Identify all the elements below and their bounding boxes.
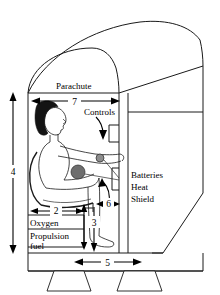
dimension-label-leg: 3 [92,218,97,228]
astronaut-hand [120,154,124,161]
seat-stitching [43,199,91,203]
lander-diagram: 4 7 2 3 [0,0,220,295]
controls-callout [96,117,107,140]
dimension-label-height: 4 [11,167,16,177]
controls-arrowhead [99,130,107,140]
label-propulsion: Propulsion [30,231,70,241]
label-controls: Controls [84,107,116,117]
label-oxygen: Oxygen [30,218,59,228]
astronaut-arm-upper [60,146,120,155]
label-fuel: fuel [30,241,44,251]
dimension-label-tank-width: 2 [54,206,59,216]
dimension-height-left: 4 [6,92,20,254]
dimension-label-cabin-width: 7 [72,97,77,107]
console-step-profile [109,125,119,142]
dome-right-edge [200,40,203,66]
dim-arrow-base-left [74,259,83,266]
astronaut-hair-icon [35,101,58,136]
label-heat: Heat [131,182,148,192]
dimension-label-base-width: 5 [105,258,110,268]
dim-arrow-leg-bottom [91,243,97,252]
dim-arrow-tank-left [30,208,38,214]
control-console [109,125,119,190]
label-parachute: Parachute [56,81,91,91]
label-shield: Shield [131,194,155,204]
astronaut-lower-leg-back [88,187,90,238]
body-chamfer-edge [163,193,203,253]
landing-leg-left [47,271,91,291]
landing-leg-right [117,271,162,291]
dimension-label-seat-height: 6 [106,199,111,209]
lander-cross-section-svg: 4 7 2 3 [0,0,220,295]
seat-cushion [41,203,93,207]
dim-arrow-base-right [133,259,142,266]
control-knob-small-icon [96,154,104,162]
landing-base-assembly [28,253,203,291]
dim-arrow-tank-tickdown [81,242,87,250]
dome-perspective-edge [119,66,203,93]
dim-arrow-width-left [31,98,40,105]
dim-arrow-height-top [10,92,17,101]
astronaut-torso [39,142,50,188]
dimension-base-width: 5 [74,256,142,268]
control-knob-large-icon [71,165,85,179]
label-batteries: Batteries [131,170,163,180]
dim-arrow-height-bottom [10,245,17,254]
astronaut-arm-lower [58,156,121,163]
